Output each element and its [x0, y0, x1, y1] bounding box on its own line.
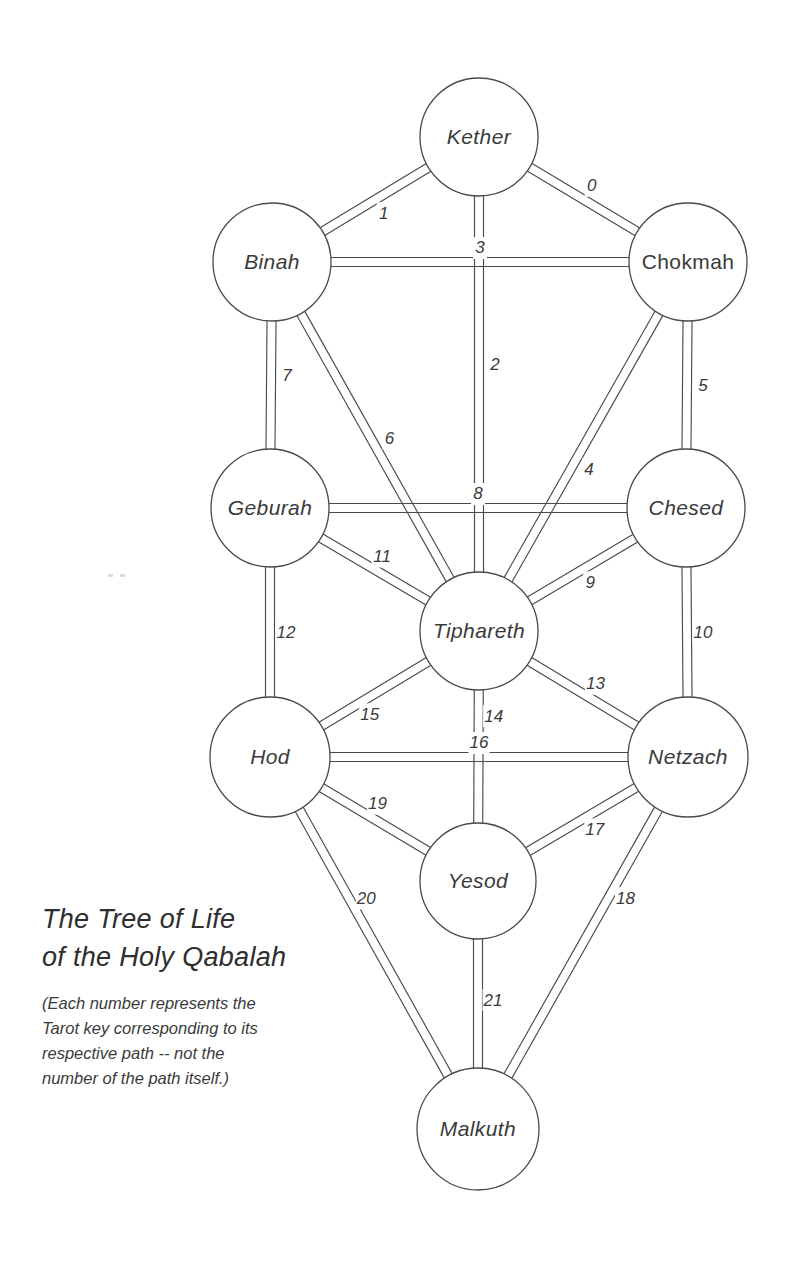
- path-line-14: [474, 690, 475, 823]
- path-line-7: [266, 321, 267, 449]
- path-number-18: 18: [616, 889, 635, 908]
- path-line-17: [526, 784, 635, 848]
- path-line-13: [527, 665, 634, 730]
- diagram-canvas: KetherBinahChokmahGeburahChesedTiphareth…: [0, 0, 794, 1266]
- path-line-6: [305, 311, 454, 577]
- path-number-6: 6: [385, 429, 395, 448]
- path-number-13: 13: [586, 674, 605, 693]
- path-number-1: 1: [379, 204, 388, 223]
- tree-of-life-diagram: KetherBinahChokmahGeburahChesedTiphareth…: [0, 0, 794, 1266]
- path-number-7: 7: [282, 366, 292, 385]
- sephira-yesod[interactable]: Yesod: [420, 823, 536, 939]
- sephira-label-malkuth: Malkuth: [440, 1117, 516, 1140]
- sephira-netzach[interactable]: Netzach: [628, 697, 748, 817]
- path-line-10: [682, 567, 683, 697]
- diagram-title-line-2: of the Holy Qabalah: [42, 942, 286, 972]
- sephira-label-binah: Binah: [244, 250, 300, 273]
- scan-artifact-speck: [108, 574, 113, 577]
- sephira-kether[interactable]: Kether: [420, 78, 538, 196]
- sephira-label-chokmah: Chokmah: [642, 250, 735, 273]
- sephira-malkuth[interactable]: Malkuth: [417, 1068, 539, 1190]
- path-line-5: [682, 321, 683, 449]
- sephira-tiphareth[interactable]: Tiphareth: [420, 572, 538, 690]
- diagram-caption-line-2: Tarot key corresponding to its: [42, 1019, 258, 1037]
- path-number-16: 16: [470, 733, 489, 752]
- path-number-21: 21: [483, 991, 503, 1010]
- path-number-8: 8: [473, 484, 483, 503]
- sephira-label-geburah: Geburah: [228, 496, 313, 519]
- sephira-label-hod: Hod: [250, 745, 291, 768]
- path-number-20: 20: [356, 889, 376, 908]
- path-number-3: 3: [475, 238, 485, 257]
- path-number-19: 19: [368, 794, 387, 813]
- sephira-chokmah[interactable]: Chokmah: [629, 203, 747, 321]
- path-number-9: 9: [585, 573, 595, 592]
- path-number-4: 4: [584, 460, 593, 479]
- path-line-5: [691, 321, 692, 449]
- path-number-0: 0: [587, 176, 597, 195]
- sephira-label-yesod: Yesod: [448, 869, 509, 892]
- path-number-11: 11: [373, 547, 391, 566]
- diagram-caption-line-1: (Each number represents the: [42, 994, 256, 1012]
- path-line-0: [527, 171, 635, 236]
- path-line-7: [275, 321, 276, 449]
- sephira-geburah[interactable]: Geburah: [211, 449, 329, 567]
- sephira-chesed[interactable]: Chesed: [627, 449, 745, 567]
- caption-layer: The Tree of Lifeof the Holy Qabalah(Each…: [42, 904, 286, 1087]
- path-number-17: 17: [585, 820, 604, 839]
- sephira-label-kether: Kether: [447, 125, 512, 148]
- path-line-4: [504, 311, 655, 578]
- path-number-12: 12: [277, 623, 296, 642]
- path-number-5: 5: [698, 376, 708, 395]
- path-line-18: [512, 811, 663, 1078]
- sephira-label-tiphareth: Tiphareth: [433, 619, 525, 642]
- sephira-label-netzach: Netzach: [648, 745, 728, 768]
- scan-artifact-speck: [120, 574, 125, 577]
- path-line-1: [320, 164, 426, 228]
- diagram-title-line-1: The Tree of Life: [42, 904, 235, 934]
- sephira-hod[interactable]: Hod: [210, 697, 330, 817]
- path-number-10: 10: [694, 623, 713, 642]
- path-number-2: 2: [489, 355, 500, 374]
- sephira-label-chesed: Chesed: [649, 496, 725, 519]
- sephira-binah[interactable]: Binah: [213, 203, 331, 321]
- diagram-caption-line-4: number of the path itself.): [42, 1069, 229, 1087]
- path-number-15: 15: [360, 705, 379, 724]
- path-line-9: [527, 534, 633, 597]
- diagram-caption-line-3: respective path -- not the: [42, 1044, 225, 1062]
- path-line-20: [295, 811, 444, 1078]
- path-line-10: [691, 567, 692, 697]
- path-number-14: 14: [484, 707, 503, 726]
